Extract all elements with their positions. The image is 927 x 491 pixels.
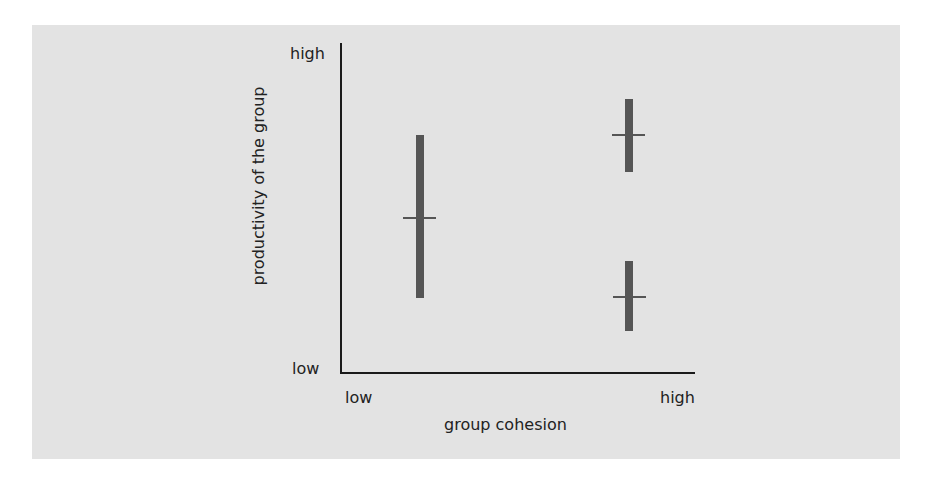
y-axis-high-label: high <box>290 46 325 62</box>
mean-tick-high-cohesion-upper <box>612 134 645 136</box>
x-axis-high-label: high <box>660 390 695 406</box>
mean-tick-low-cohesion <box>403 217 436 219</box>
y-axis <box>340 43 342 374</box>
x-axis <box>340 372 695 374</box>
x-axis-low-label: low <box>345 390 372 406</box>
y-axis-title: productivity of the group <box>249 86 268 285</box>
mean-tick-high-cohesion-lower <box>613 296 646 298</box>
figure-panel <box>32 25 900 459</box>
x-axis-title: group cohesion <box>444 417 567 433</box>
y-axis-low-label: low <box>292 361 319 377</box>
